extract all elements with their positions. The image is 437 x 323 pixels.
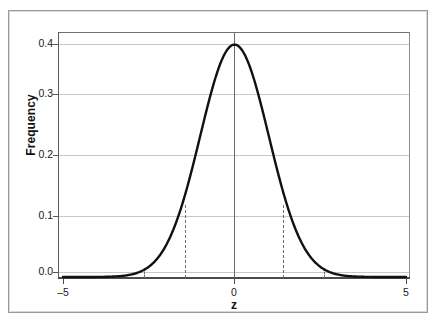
x-tick-label-5: 5 xyxy=(386,286,426,298)
y-tick-0.0: 0.0 xyxy=(0,266,53,277)
x-tick-label-neg5: –5 xyxy=(43,286,83,298)
x-tick-mark-5 xyxy=(406,279,407,284)
y-tick-0.4: 0.4 xyxy=(0,38,53,49)
y-tick-label: 0.0 xyxy=(38,266,53,277)
curve-path xyxy=(63,45,406,277)
y-axis-title: Frequency xyxy=(24,70,38,180)
figure-canvas: 0.4 0.3 0.2 0.1 0.0 Frequency –5 0 5 z xyxy=(0,0,437,323)
y-tick-label: 0.4 xyxy=(38,38,53,49)
y-tick-label: 0.1 xyxy=(38,210,53,221)
x-tick-label-0: 0 xyxy=(214,286,254,298)
y-tick-0.1: 0.1 xyxy=(0,210,53,221)
x-tick-mark-0 xyxy=(234,279,235,284)
x-tick-mark-neg5 xyxy=(63,279,64,284)
y-tick-label: 0.3 xyxy=(38,88,53,99)
y-tick-label: 0.2 xyxy=(38,149,53,160)
x-axis-title: z xyxy=(214,299,254,311)
normal-distribution-curve xyxy=(58,32,410,278)
